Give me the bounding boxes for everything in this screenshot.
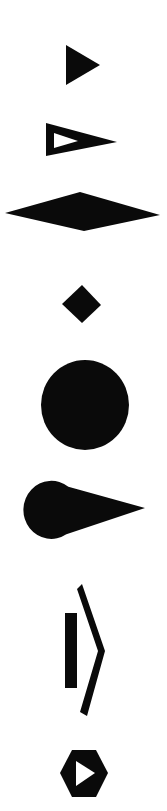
filled-circle-shape xyxy=(41,360,129,450)
shape-glyph-layer xyxy=(0,0,167,811)
shape-strip-canvas: Shape Glyph Strip xyxy=(0,0,167,811)
vertical-bar-shape xyxy=(65,613,77,688)
